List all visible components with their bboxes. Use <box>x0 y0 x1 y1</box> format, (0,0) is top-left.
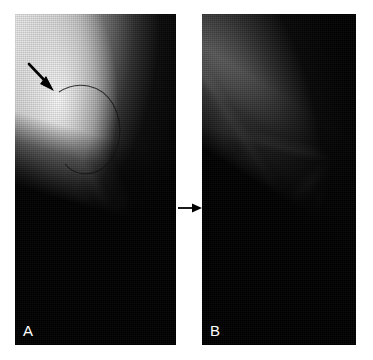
panel-b-label: B <box>210 323 221 338</box>
panel-a-label: A <box>23 323 34 338</box>
panel-a-background-wedge <box>15 14 176 345</box>
panel-a-image[interactable]: A <box>15 14 176 345</box>
panel-b-image[interactable]: B <box>202 14 356 345</box>
right-arrow-icon <box>176 194 204 222</box>
panel-b-background-wedge <box>202 14 356 345</box>
mammogram-figure: A B <box>0 0 373 360</box>
